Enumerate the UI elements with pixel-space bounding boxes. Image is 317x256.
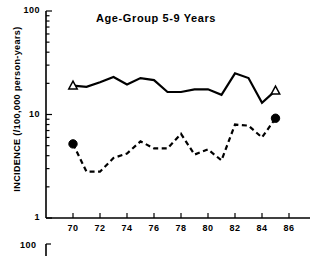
x-tick-label: 72 <box>88 223 112 233</box>
y-tick-label: 1 <box>12 212 40 222</box>
x-tick-label: 78 <box>169 223 193 233</box>
dashed-line-series <box>73 118 276 171</box>
x-tick-label: 76 <box>142 223 166 233</box>
open-triangle-marker <box>271 86 279 94</box>
filled-circle-marker <box>69 140 77 148</box>
x-tick-label: 74 <box>115 223 139 233</box>
chart-title: Age-Group 5-9 Years <box>96 12 216 24</box>
filled-circle-marker <box>271 114 279 122</box>
plot-area <box>0 0 317 256</box>
x-tick-label: 82 <box>223 223 247 233</box>
x-tick-label: 86 <box>277 223 301 233</box>
series-layer <box>73 73 276 171</box>
axes-layer <box>46 11 310 256</box>
y-tick-label: 10 <box>12 109 40 119</box>
x-tick-label: 70 <box>61 223 85 233</box>
x-tick-label: 80 <box>196 223 220 233</box>
open-triangle-marker <box>69 81 77 89</box>
figure-panel: INCIDENCE (/100,000 person-years) Age-Gr… <box>0 0 317 256</box>
solid-line-series <box>73 73 276 102</box>
x-tick-label: 84 <box>250 223 274 233</box>
y-tick-label: 100 <box>12 5 40 15</box>
next-panel-y-tick-label: 100 <box>20 240 37 250</box>
